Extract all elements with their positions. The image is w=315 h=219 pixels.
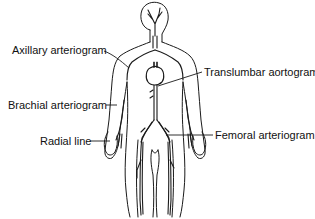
vascular-access-diagram: Axillary arteriogram Brachial arteriogra… xyxy=(0,0,315,219)
heart-shape xyxy=(146,67,163,86)
label-axillary-arteriogram: Axillary arteriogram xyxy=(12,44,107,56)
label-brachial-arteriogram: Brachial arteriogram xyxy=(8,99,107,111)
leader-axillary xyxy=(104,51,129,68)
label-radial-line: Radial line xyxy=(40,135,91,147)
leader-translumbar xyxy=(158,72,202,86)
label-femoral-arteriogram: Femoral arteriogram xyxy=(215,129,315,141)
legs-outline xyxy=(137,140,139,217)
label-translumbar-aortogram: Translumbar aortogram xyxy=(204,66,315,78)
